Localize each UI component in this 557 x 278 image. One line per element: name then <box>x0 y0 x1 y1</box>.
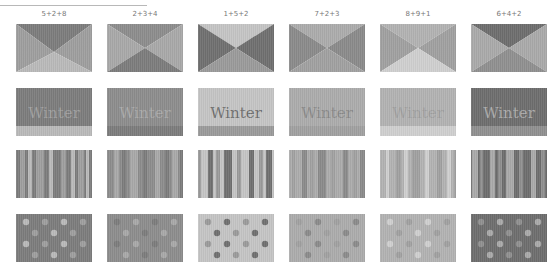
dots-swatch[interactable] <box>380 214 456 262</box>
stripes-swatch[interactable] <box>471 150 547 198</box>
envelope-swatch[interactable] <box>198 24 274 72</box>
dot <box>334 219 340 225</box>
stripe <box>490 150 495 198</box>
winter-swatch-graphic: Winter <box>16 88 92 136</box>
winter-band <box>471 126 547 136</box>
winter-swatch[interactable]: Winter <box>289 88 365 136</box>
winter-swatch-graphic: Winter <box>471 88 547 136</box>
dot <box>224 219 230 225</box>
stripe <box>331 150 335 198</box>
dot <box>444 219 450 225</box>
stripes-swatch[interactable] <box>16 150 92 198</box>
envelope-swatch[interactable] <box>471 24 547 72</box>
dot <box>133 219 139 225</box>
dot <box>324 230 330 236</box>
stripes-swatch-graphic <box>471 150 547 198</box>
stripe <box>78 150 84 198</box>
envelope-swatch-graphic <box>16 24 92 72</box>
dot <box>425 241 431 247</box>
dot <box>415 230 421 236</box>
winter-band <box>107 126 183 136</box>
stripes-swatch-graphic <box>380 150 456 198</box>
dot <box>315 219 321 225</box>
dot <box>343 230 349 236</box>
dot <box>142 252 148 258</box>
stripe <box>531 150 536 198</box>
winter-text: Winter <box>119 104 172 122</box>
envelope-swatch[interactable] <box>289 24 365 72</box>
dots-swatch[interactable] <box>198 214 274 262</box>
dot <box>262 241 268 247</box>
dot <box>535 219 541 225</box>
stripes-swatch[interactable] <box>107 150 183 198</box>
stripe <box>498 150 502 198</box>
dot <box>353 219 359 225</box>
dot <box>171 241 177 247</box>
dots-swatch[interactable] <box>16 214 92 262</box>
stripe <box>224 150 232 198</box>
winter-swatch[interactable]: Winter <box>198 88 274 136</box>
stripe <box>472 150 478 198</box>
winter-swatch[interactable]: Winter <box>107 88 183 136</box>
dots-swatch-graphic <box>107 214 183 262</box>
stripes-swatch[interactable] <box>380 150 456 198</box>
dot <box>444 241 450 247</box>
winter-swatch[interactable]: Winter <box>471 88 547 136</box>
dot <box>434 230 440 236</box>
dots-swatch[interactable] <box>289 214 365 262</box>
envelope-swatch[interactable] <box>380 24 456 72</box>
stripe <box>425 150 429 198</box>
dot <box>80 219 86 225</box>
stripes-swatch[interactable] <box>198 150 274 198</box>
dot <box>42 241 48 247</box>
stripes-swatch-graphic <box>289 150 365 198</box>
stripes-swatch-graphic <box>198 150 274 198</box>
winter-band <box>380 126 456 136</box>
dot <box>161 252 167 258</box>
winter-text: Winter <box>301 104 354 122</box>
envelope-swatch[interactable] <box>107 24 183 72</box>
dots-swatch-graphic <box>198 214 274 262</box>
dot <box>525 252 531 258</box>
stripe <box>302 150 307 198</box>
dot <box>80 241 86 247</box>
dot <box>114 219 120 225</box>
stripe <box>71 150 75 198</box>
combo-label: 2+3+4 <box>107 10 183 18</box>
stripes-swatch[interactable] <box>289 150 365 198</box>
winter-swatch[interactable]: Winter <box>380 88 456 136</box>
winter-text: Winter <box>483 104 536 122</box>
stripe <box>180 150 183 198</box>
dot <box>32 252 38 258</box>
stripe <box>20 150 25 198</box>
stripe <box>396 150 401 198</box>
envelope-swatch[interactable] <box>16 24 92 72</box>
dot <box>70 252 76 258</box>
stripe <box>172 150 178 198</box>
dot <box>262 219 268 225</box>
stripe <box>437 150 442 198</box>
dot <box>114 241 120 247</box>
dot <box>525 230 531 236</box>
combo-label: 7+2+3 <box>289 10 365 18</box>
envelope-swatch-graphic <box>471 24 547 72</box>
dot <box>205 219 211 225</box>
dot <box>70 230 76 236</box>
dots-swatch[interactable] <box>107 214 183 262</box>
stripe <box>165 150 169 198</box>
dots-swatch-graphic <box>380 214 456 262</box>
stripe <box>266 150 272 198</box>
dot <box>142 230 148 236</box>
dots-swatch-graphic <box>471 214 547 262</box>
dot <box>243 241 249 247</box>
winter-swatch[interactable]: Winter <box>16 88 92 136</box>
dots-swatch[interactable] <box>471 214 547 262</box>
dot <box>296 241 302 247</box>
stripe <box>310 150 314 198</box>
envelope-swatch-graphic <box>107 24 183 72</box>
winter-text: Winter <box>392 104 445 122</box>
stripes-swatch-graphic <box>16 150 92 198</box>
stripe <box>412 150 420 198</box>
dot <box>305 230 311 236</box>
stripe <box>519 150 523 198</box>
